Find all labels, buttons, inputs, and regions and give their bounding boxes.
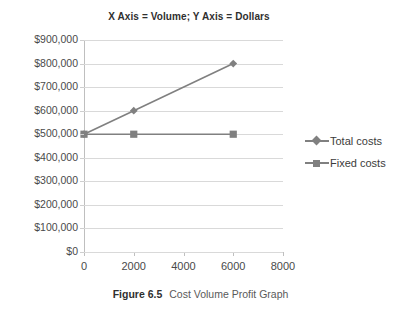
y-axis-tick-label: $300,000 xyxy=(6,174,78,186)
chart-legend: Total costs Fixed costs xyxy=(305,130,401,174)
y-axis-tick-label: $700,000 xyxy=(6,80,78,92)
y-axis-tick xyxy=(80,111,84,112)
diamond-marker-icon xyxy=(130,107,138,115)
x-axis-tick-label: 0 xyxy=(64,260,104,272)
y-axis-tick xyxy=(80,252,84,253)
series-line xyxy=(84,64,233,135)
figure-caption: Figure 6.5Cost Volume Profit Graph xyxy=(0,288,401,300)
series-layer xyxy=(84,40,283,252)
y-axis-tick xyxy=(80,64,84,65)
legend-item-label: Fixed costs xyxy=(329,157,386,169)
legend-item-label: Total costs xyxy=(329,135,382,147)
legend-item-fixed-costs[interactable]: Fixed costs xyxy=(305,152,401,174)
legend-item-total-costs[interactable]: Total costs xyxy=(305,130,401,152)
figure-container: X Axis = Volume; Y Axis = Dollars $0$100… xyxy=(0,0,401,309)
chart-title: X Axis = Volume; Y Axis = Dollars xyxy=(84,11,294,22)
figure-caption-text: Cost Volume Profit Graph xyxy=(162,288,288,300)
x-axis-tick-label: 4000 xyxy=(164,260,204,272)
y-axis-tick-label: $600,000 xyxy=(6,104,78,116)
y-axis-tick-label: $200,000 xyxy=(6,198,78,210)
x-axis-tick xyxy=(283,252,284,256)
y-axis-tick xyxy=(80,158,84,159)
y-axis-tick-label: $0 xyxy=(6,245,78,257)
y-axis-tick xyxy=(80,87,84,88)
square-marker-icon xyxy=(230,131,237,138)
square-marker-icon xyxy=(130,131,137,138)
y-axis-tick xyxy=(80,228,84,229)
gridline xyxy=(84,252,283,253)
square-marker-icon xyxy=(305,157,329,169)
x-axis-tick-label: 8000 xyxy=(263,260,303,272)
y-axis-tick-label: $500,000 xyxy=(6,127,78,139)
y-axis-tick xyxy=(80,134,84,135)
diamond-marker-icon xyxy=(305,135,329,147)
x-axis-tick-label: 2000 xyxy=(114,260,154,272)
y-axis-tick xyxy=(80,181,84,182)
y-axis-tick xyxy=(80,205,84,206)
y-axis-tick-label: $800,000 xyxy=(6,57,78,69)
figure-number: Figure 6.5 xyxy=(113,288,163,300)
y-axis-tick xyxy=(80,40,84,41)
y-axis-tick-label: $400,000 xyxy=(6,151,78,163)
x-axis-tick-label: 6000 xyxy=(213,260,253,272)
y-axis-tick-label: $900,000 xyxy=(6,33,78,45)
diamond-marker-icon xyxy=(229,60,237,68)
plot-area xyxy=(84,40,283,252)
y-axis-tick-label: $100,000 xyxy=(6,221,78,233)
